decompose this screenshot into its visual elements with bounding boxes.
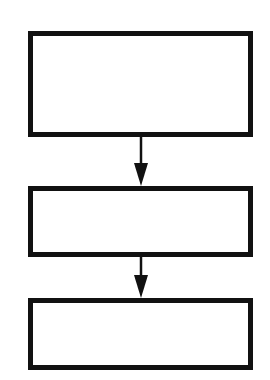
arrow-1-to-2-icon [134, 136, 148, 186]
connectors [0, 0, 270, 380]
arrow-2-to-3-icon [134, 256, 148, 298]
